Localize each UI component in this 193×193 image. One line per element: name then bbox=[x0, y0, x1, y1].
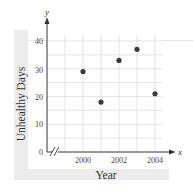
x-axis-symbol: x bbox=[177, 147, 182, 157]
scatter-plot: y x 40 30 20 10 0 2000 2002 2004 bbox=[0, 0, 193, 193]
plot-area bbox=[47, 35, 162, 153]
data-point bbox=[152, 91, 157, 96]
y-axis-symbol: y bbox=[44, 7, 49, 17]
y-axis-title: Unhealthy Days bbox=[15, 67, 27, 141]
data-point bbox=[134, 47, 139, 52]
y-tick-10: 10 bbox=[35, 120, 43, 129]
x-axis-title: Year bbox=[95, 169, 116, 181]
data-point bbox=[116, 58, 121, 63]
y-tick-20: 20 bbox=[35, 93, 43, 102]
y-axis-arrow-icon bbox=[45, 17, 50, 24]
y-tick-0: 0 bbox=[39, 148, 43, 157]
x-tick-2002: 2002 bbox=[111, 156, 127, 165]
data-point bbox=[98, 99, 103, 104]
x-axis-arrow-icon bbox=[169, 150, 176, 155]
x-tick-2000: 2000 bbox=[75, 156, 91, 165]
y-tick-40: 40 bbox=[35, 37, 43, 46]
x-tick-2004: 2004 bbox=[147, 156, 163, 165]
y-tick-30: 30 bbox=[35, 66, 43, 75]
data-point bbox=[80, 69, 85, 74]
